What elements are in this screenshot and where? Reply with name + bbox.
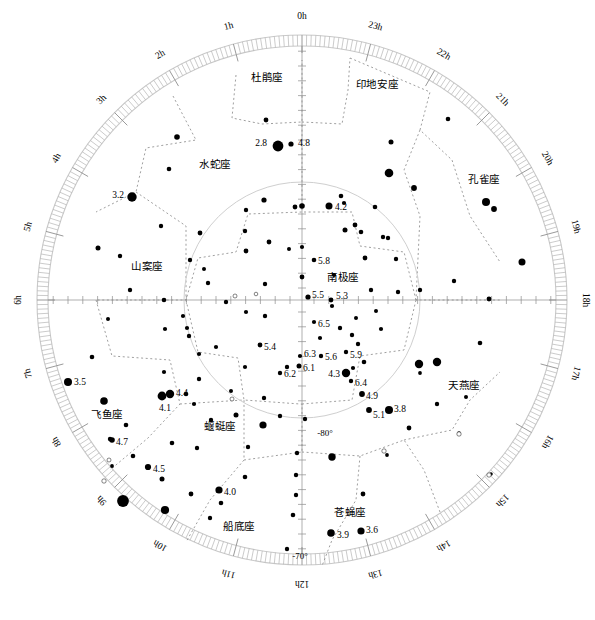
- ra-minor-tick: [539, 391, 549, 395]
- star-magnitude-label: 2.8: [255, 138, 267, 148]
- ra-minor-tick: [520, 164, 529, 170]
- ra-minor-tick: [154, 80, 160, 89]
- ra-minor-tick: [82, 442, 91, 448]
- ra-minor-tick: [118, 109, 126, 117]
- ra-minor-tick: [389, 539, 393, 549]
- ra-minor-tick: [47, 370, 58, 373]
- star-marker-labelled: [166, 390, 174, 398]
- ra-minor-tick: [488, 119, 496, 127]
- ra-minor-tick: [556, 313, 567, 314]
- ra-minor-tick: [421, 524, 426, 534]
- star-magnitude-label: 4.9: [366, 391, 378, 401]
- ra-minor-tick: [475, 486, 483, 494]
- star-magnitude-label: 5.3: [336, 291, 348, 301]
- ra-minor-tick: [513, 442, 522, 448]
- star-magnitude-label: 6.4: [355, 378, 367, 388]
- star-marker: [187, 334, 191, 338]
- ra-minor-tick: [42, 249, 53, 251]
- variable-star-marker: [107, 458, 111, 462]
- ra-minor-tick: [44, 357, 55, 359]
- star-marker: [299, 203, 305, 209]
- star-marker-labelled: [109, 437, 115, 443]
- ra-minor-tick: [433, 518, 439, 527]
- ra-minor-tick: [502, 137, 511, 144]
- ra-minor-tick: [284, 553, 285, 564]
- ra-minor-tick: [417, 526, 422, 536]
- star-marker: [259, 421, 266, 428]
- star-marker-labelled: [342, 369, 350, 377]
- star-magnitude-label: 4.7: [116, 437, 128, 447]
- ra-minor-tick: [105, 470, 113, 477]
- ra-minor-tick: [359, 42, 361, 53]
- ra-minor-tick: [229, 544, 232, 555]
- ra-minor-tick: [554, 331, 565, 332]
- ra-minor-tick: [105, 123, 113, 130]
- ra-minor-tick: [544, 218, 554, 221]
- ra-minor-tick: [425, 522, 430, 532]
- ra-minor-tick: [549, 240, 560, 242]
- ra-minor-tick: [229, 45, 232, 56]
- ra-hour-label: 14h: [435, 538, 453, 554]
- ra-minor-tick: [437, 75, 443, 84]
- star-marker: [246, 445, 250, 449]
- ra-minor-tick: [203, 536, 207, 546]
- ra-minor-tick: [111, 476, 119, 484]
- ra-minor-tick: [143, 503, 150, 512]
- ra-hour-tick: [366, 539, 371, 556]
- star-magnitude-label: 6.1: [303, 363, 315, 373]
- ra-hour-label: 20h: [540, 149, 556, 167]
- ra-minor-tick: [555, 282, 566, 283]
- ra-minor-tick: [49, 223, 60, 226]
- ra-minor-tick: [58, 399, 68, 403]
- ra-minor-tick: [37, 313, 48, 314]
- ra-minor-tick: [485, 476, 493, 484]
- ra-minor-tick: [75, 431, 84, 437]
- ra-minor-tick: [135, 497, 142, 506]
- ra-minor-tick: [462, 497, 469, 506]
- ra-minor-tick: [38, 322, 49, 323]
- ra-minor-tick: [499, 460, 508, 467]
- ra-minor-tick: [174, 522, 179, 532]
- ra-minor-tick: [451, 86, 457, 95]
- variable-star-marker: [102, 479, 106, 483]
- star-magnitude-label: 5.9: [350, 350, 362, 360]
- star-marker-labelled: [215, 486, 222, 493]
- ra-minor-tick: [80, 156, 89, 162]
- ra-minor-tick: [515, 438, 524, 444]
- ra-minor-tick: [472, 103, 479, 111]
- ra-minor-tick: [546, 227, 557, 230]
- star-marker: [362, 360, 367, 365]
- star-marker-labelled: [385, 406, 393, 414]
- ra-minor-tick: [68, 419, 78, 424]
- star-marker-labelled: [288, 141, 293, 146]
- ra-minor-tick: [545, 374, 556, 377]
- star-marker: [300, 275, 305, 280]
- star-marker: [197, 377, 201, 381]
- star-marker: [385, 169, 394, 178]
- ra-minor-tick: [182, 526, 187, 536]
- ra-minor-tick: [132, 97, 139, 105]
- star-magnitude-label: 6.2: [284, 369, 296, 379]
- ra-minor-tick: [324, 36, 325, 47]
- star-marker: [267, 240, 272, 245]
- star-marker: [411, 185, 417, 191]
- ra-minor-tick: [45, 361, 56, 364]
- ra-minor-tick: [77, 160, 86, 166]
- ra-minor-tick: [555, 327, 566, 328]
- ra-hour-tick: [46, 364, 63, 369]
- ra-minor-tick: [150, 83, 156, 92]
- star-marker: [373, 205, 378, 210]
- ra-minor-tick: [182, 64, 187, 74]
- ra-minor-tick: [528, 415, 538, 420]
- ra-minor-tick: [146, 86, 152, 95]
- star-marker: [195, 446, 199, 450]
- ra-minor-tick: [194, 532, 198, 542]
- variable-star-marker: [382, 449, 386, 453]
- star-marker: [303, 417, 307, 421]
- star-marker-labelled: [273, 141, 284, 152]
- ra-minor-tick: [458, 91, 465, 100]
- ra-minor-tick: [53, 209, 63, 213]
- star-marker: [106, 317, 110, 321]
- ra-minor-tick: [536, 399, 546, 403]
- ra-minor-tick: [433, 73, 439, 82]
